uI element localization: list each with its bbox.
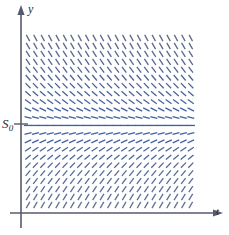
slope-mark [77,155,82,160]
slope-mark [144,155,149,160]
slope-mark [129,83,134,88]
slope-mark [78,178,82,184]
slope-mark [92,170,97,176]
slope-mark [33,186,37,192]
slope-mark [159,178,163,184]
slope-mark [48,43,52,49]
slope-mark [54,117,61,119]
slope-mark [26,202,30,208]
slope-mark [25,108,31,111]
slope-mark [32,117,39,119]
slope-mark [93,202,97,208]
slope-mark [56,186,60,192]
equilibrium-tick-label-subscript: 0 [9,123,14,133]
slope-mark [107,194,111,200]
slope-mark [62,155,67,160]
slope-mark [100,163,105,168]
slope-mark [26,51,30,57]
slope-mark [32,147,38,151]
slope-mark [77,108,83,111]
slope-mark [143,147,149,151]
slope-mark [113,133,120,135]
slope-mark [107,178,111,184]
slope-mark [93,51,97,57]
slope-mark [47,133,54,135]
slope-mark [174,67,178,73]
slope-mark [63,51,67,57]
slope-mark [85,186,89,192]
slope-mark [93,59,97,65]
slope-mark [136,140,143,143]
slope-mark [55,75,60,81]
slope-mark [99,155,104,160]
slope-mark [144,170,149,176]
slope-mark [56,202,60,208]
slope-mark [121,147,127,151]
slope-mark [34,35,37,41]
slope-mark [173,155,178,160]
y-axis-arrowhead [17,5,24,15]
slope-mark [152,51,156,57]
slope-mark [70,163,75,168]
slope-mark [55,163,60,168]
slope-mark [92,155,97,160]
slope-mark [121,140,128,143]
slope-mark [100,194,104,200]
slope-mark [63,170,68,176]
slope-mark [63,43,67,49]
slope-mark [93,35,96,41]
slope-mark [40,163,45,168]
slope-mark [158,117,165,119]
slope-mark [159,194,163,200]
slope-mark [188,147,194,151]
slope-mark [144,59,148,65]
slope-mark [92,75,97,81]
slope-mark [114,147,120,151]
slope-mark [70,155,75,160]
slope-mark [159,186,163,192]
slope-mark [145,43,149,49]
slope-mark [182,35,185,41]
slope-mark [130,202,134,208]
slope-mark [93,194,97,200]
slope-mark [92,83,97,88]
slope-mark [55,91,60,96]
slope-mark [99,100,105,104]
slope-mark [47,155,52,160]
equilibrium-tick-label: S0 [2,117,13,133]
slope-mark [152,186,156,192]
slope-mark [189,35,192,41]
slope-mark [106,133,113,135]
slope-mark [33,155,38,160]
slope-mark [34,43,38,49]
slope-mark [114,75,119,81]
slope-mark [167,51,171,57]
slope-mark [100,202,104,208]
slope-mark [107,155,112,160]
slope-mark [40,83,45,88]
slope-mark [55,100,61,104]
slope-mark [152,59,156,65]
slope-mark [62,133,69,135]
slope-mark [144,91,149,96]
slope-mark [150,117,157,119]
slope-mark [189,67,193,73]
slope-mark [181,155,186,160]
slope-mark [69,100,75,104]
slope-mark [121,133,128,135]
slope-mark [92,67,96,73]
slope-field-canvas [0,0,229,235]
slope-mark [189,178,193,184]
slope-mark [78,35,81,41]
slope-mark [167,202,171,208]
slope-mark [181,163,186,168]
slope-mark [63,163,68,168]
slope-mark [70,51,74,57]
slope-mark [100,83,105,88]
slope-mark [151,170,156,176]
slope-mark [158,147,164,151]
slope-mark [122,75,127,81]
slope-mark [108,35,111,41]
slope-mark [137,67,141,73]
slope-mark [166,178,170,184]
